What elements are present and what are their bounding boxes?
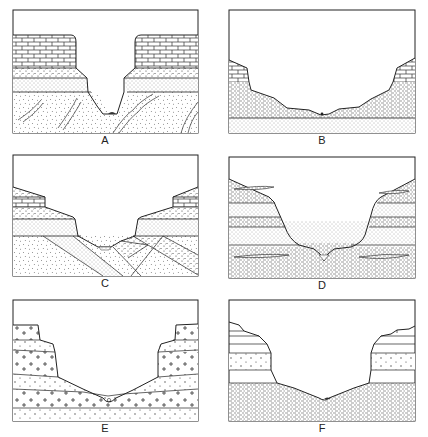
panel-label-e: E: [95, 422, 115, 434]
panel-label-b: B: [312, 134, 332, 146]
panel-f: F: [229, 300, 415, 421]
panel-d: D: [229, 157, 415, 278]
panel-label-c: C: [95, 277, 115, 289]
panel-b: B: [229, 10, 415, 133]
cross-section-f: [229, 300, 415, 421]
panel-c: C: [13, 155, 198, 276]
panel-label-a: A: [95, 134, 115, 146]
panel-label-d: D: [312, 279, 332, 291]
panel-e: E: [13, 300, 198, 421]
cross-section-b: [229, 10, 415, 133]
cross-section-e: [13, 300, 198, 421]
panel-a: A: [13, 10, 198, 133]
cross-section-d: [229, 157, 415, 278]
cross-section-c: [13, 155, 198, 276]
cross-section-a: [13, 10, 198, 133]
panel-label-f: F: [312, 422, 332, 434]
